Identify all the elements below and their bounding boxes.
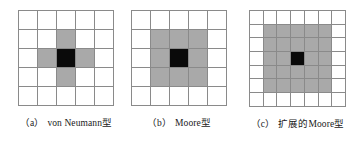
cell-white (76, 30, 95, 49)
cell-white (332, 79, 346, 93)
cell-white (132, 30, 151, 49)
cell-white (250, 52, 264, 66)
grid-moore (131, 10, 227, 106)
cell-white (19, 30, 38, 49)
cell-white (332, 38, 346, 52)
caption-tag-c: （c） (251, 119, 276, 129)
cell-white (151, 11, 170, 30)
caption-label-b: Moore型 (175, 118, 211, 128)
cell-white (264, 93, 278, 107)
cell-black (291, 52, 305, 66)
cell-white (95, 11, 114, 30)
cell-white (19, 87, 38, 106)
cell-white (57, 11, 76, 30)
cell-white (38, 30, 57, 49)
cell-white (332, 93, 346, 107)
cell-gray (319, 52, 333, 66)
cell-white (189, 87, 208, 106)
cell-white (76, 11, 95, 30)
cell-gray (319, 79, 333, 93)
cell-white (277, 11, 291, 25)
cell-gray (264, 52, 278, 66)
cell-white (19, 68, 38, 87)
cell-gray (264, 66, 278, 80)
cell-white (95, 87, 114, 106)
cell-gray (151, 30, 170, 49)
cell-gray (264, 25, 278, 39)
cell-white (76, 87, 95, 106)
cell-white (277, 93, 291, 107)
caption-von-neumann: （a）von Neumann型 (20, 117, 112, 129)
cell-gray (291, 66, 305, 80)
cell-white (291, 93, 305, 107)
cell-white (208, 30, 227, 49)
cell-gray (76, 49, 95, 68)
cell-gray (305, 66, 319, 80)
cell-white (132, 11, 151, 30)
cell-white (332, 52, 346, 66)
cell-black (57, 49, 76, 68)
cell-white (132, 68, 151, 87)
cell-white (208, 49, 227, 68)
cell-white (19, 49, 38, 68)
cell-gray (189, 49, 208, 68)
cell-white (76, 68, 95, 87)
cell-gray (189, 30, 208, 49)
cell-white (250, 38, 264, 52)
cell-white (38, 87, 57, 106)
cell-white (319, 93, 333, 107)
panel-von-neumann: （a）von Neumann型 (0, 10, 132, 129)
cell-gray (264, 79, 278, 93)
cell-white (132, 49, 151, 68)
cell-gray (291, 25, 305, 39)
caption-label-c: 扩展的Moore型 (278, 119, 344, 129)
cell-gray (277, 38, 291, 52)
cell-white (264, 11, 278, 25)
cell-white (332, 25, 346, 39)
cell-white (95, 68, 114, 87)
cell-gray (151, 68, 170, 87)
cell-white (250, 25, 264, 39)
cell-gray (57, 30, 76, 49)
grid-von-neumann (18, 10, 114, 106)
panel-moore: （b）Moore型 (118, 10, 240, 129)
caption-extended-moore: （c）扩展的Moore型 (251, 118, 345, 130)
cell-gray (305, 25, 319, 39)
cell-gray (170, 68, 189, 87)
cell-gray (170, 30, 189, 49)
cell-gray (57, 68, 76, 87)
cell-gray (319, 66, 333, 80)
cell-gray (277, 66, 291, 80)
cell-white (250, 79, 264, 93)
cell-gray (277, 79, 291, 93)
cell-gray (277, 52, 291, 66)
cell-black (170, 49, 189, 68)
cell-white (250, 93, 264, 107)
cell-white (250, 11, 264, 25)
cell-gray (264, 38, 278, 52)
grid-extended-moore (249, 10, 346, 107)
cell-white (95, 30, 114, 49)
cell-gray (305, 38, 319, 52)
cell-white (38, 68, 57, 87)
cell-white (208, 11, 227, 30)
cell-gray (291, 79, 305, 93)
cell-white (319, 11, 333, 25)
panel-extended-moore: （c）扩展的Moore型 (238, 10, 357, 130)
caption-label-a: von Neumann型 (47, 118, 112, 128)
cell-white (332, 66, 346, 80)
cell-gray (151, 49, 170, 68)
cell-white (250, 66, 264, 80)
cell-white (332, 11, 346, 25)
cell-white (170, 11, 189, 30)
cell-white (151, 87, 170, 106)
cell-white (19, 11, 38, 30)
cell-white (170, 87, 189, 106)
caption-moore: （b）Moore型 (147, 117, 211, 129)
cell-white (291, 11, 305, 25)
caption-tag-a: （a） (20, 118, 45, 128)
figure-cellular-neighborhoods: （a）von Neumann型 （b）Moore型 （c）扩展的Moore型 (0, 0, 357, 148)
cell-gray (189, 68, 208, 87)
cell-gray (277, 25, 291, 39)
cell-gray (319, 38, 333, 52)
